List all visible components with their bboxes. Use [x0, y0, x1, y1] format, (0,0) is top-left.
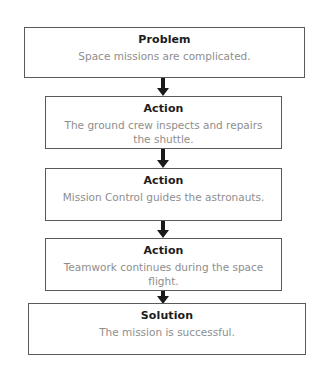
node-title: Solution — [141, 308, 193, 323]
node-title: Action — [143, 243, 183, 258]
node-body: Space missions are complicated. — [68, 47, 260, 63]
node-body: Teamwork continues during the space flig… — [46, 258, 281, 288]
arrow-head — [157, 88, 169, 96]
down-arrow-icon — [157, 78, 169, 96]
down-arrow-icon — [157, 291, 169, 303]
node-body: The mission is successful. — [89, 323, 245, 339]
flowchart-diagram: Problem Space missions are complicated. … — [0, 0, 326, 379]
flowchart-node-problem: Problem Space missions are complicated. — [24, 27, 305, 78]
arrow-head — [157, 160, 169, 168]
node-body: Mission Control guides the astronauts. — [53, 188, 274, 204]
flowchart-node-solution: Solution The mission is successful. — [28, 303, 306, 355]
flowchart-node-action-1: Action The ground crew inspects and repa… — [45, 96, 282, 149]
node-body: The ground crew inspects and repairs the… — [46, 116, 281, 146]
node-title: Problem — [138, 32, 190, 47]
down-arrow-icon — [157, 149, 169, 168]
node-title: Action — [143, 173, 183, 188]
arrow-shaft — [161, 78, 165, 88]
down-arrow-icon — [157, 221, 169, 238]
arrow-shaft — [161, 149, 165, 160]
node-title: Action — [143, 101, 183, 116]
arrow-head — [157, 230, 169, 238]
flowchart-node-action-2: Action Mission Control guides the astron… — [45, 168, 282, 221]
arrow-shaft — [161, 221, 165, 230]
flowchart-node-action-3: Action Teamwork continues during the spa… — [45, 238, 282, 291]
